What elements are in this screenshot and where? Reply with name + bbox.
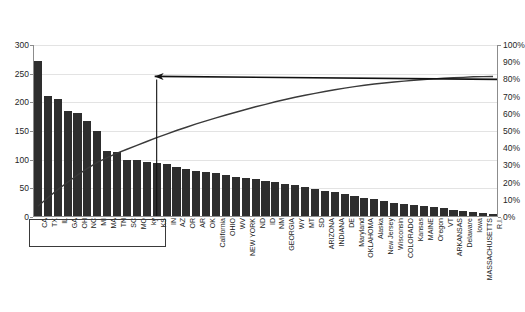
x-axis-tick-label: OK <box>209 218 216 228</box>
x-axis-tick-label: New Jersey <box>387 218 394 255</box>
x-axis-tick-label: Alaska <box>377 218 384 239</box>
x-axis-tick-label: AR <box>199 218 206 228</box>
y-axis-right-line <box>497 45 498 217</box>
x-axis-tick-label: OKLAHOMA <box>367 218 374 258</box>
x-axis-tick-label: GEORGIA <box>288 218 295 251</box>
plot-area: 050100150200250300 0%10%20%30%40%50%60%7… <box>33 45 498 217</box>
x-axis-tick-label: INDIANA <box>338 218 345 246</box>
x-axis-tick-label: Kansas <box>417 218 424 241</box>
y-axis-right-tick-label: 30% <box>503 160 520 170</box>
y-axis-right-tick-label: 60% <box>503 109 520 119</box>
cumulative-percent-line <box>38 76 493 206</box>
x-axis-tick-label: R.I. <box>496 218 503 229</box>
y-axis-left-tick-label: 0 <box>0 212 29 222</box>
x-axis-tick-label: NM <box>278 218 285 229</box>
x-axis-tick-label: DE <box>348 218 355 228</box>
vital-few-label-box <box>29 219 166 247</box>
x-axis-tick-label: MT <box>308 218 315 228</box>
y-axis-right-tick-label: 90% <box>503 57 520 67</box>
x-axis-tick-label: WV <box>239 218 246 229</box>
x-axis-tick-label: AZ <box>179 218 186 227</box>
y-axis-right-tick-label: 20% <box>503 178 520 188</box>
x-axis-tick-label: Delaware <box>466 218 473 248</box>
y-axis-right-tick-label: 40% <box>503 143 520 153</box>
x-axis-tick-label: VT <box>447 218 454 227</box>
x-axis-tick-label: ID <box>269 218 276 225</box>
x-axis-tick-label: OHIO <box>229 218 236 236</box>
x-axis-tick-label: SD <box>318 218 325 228</box>
x-axis-tick-label: MASSACHUSETTS <box>486 218 493 280</box>
y-axis-right-tick-label: 50% <box>503 126 520 136</box>
x-axis-tick-label: WY <box>298 218 305 229</box>
y-axis-left-line <box>33 45 34 217</box>
y-axis-left-tick-label: 50 <box>0 183 29 193</box>
x-axis-tick-label: ARKANSAS <box>456 218 463 256</box>
x-axis-tick-label: MAINE <box>427 218 434 240</box>
x-axis-tick-label: ND <box>259 218 266 228</box>
y-axis-left-tick-label: 150 <box>0 126 29 136</box>
x-axis-tick-label: IN <box>170 218 177 225</box>
y-axis-right-tick-label: 100% <box>503 40 525 50</box>
x-axis-tick-label: Maryland <box>358 218 365 247</box>
x-axis-tick-label: NEW YORK <box>249 218 256 256</box>
y-axis-right-tick-label: 80% <box>503 74 520 84</box>
y-axis-right-tick-mark <box>498 45 501 46</box>
x-axis-tick-label: OR <box>189 218 196 229</box>
y-axis-left-tick-label: 100 <box>0 155 29 165</box>
y-axis-right-tick-label: 10% <box>503 195 520 205</box>
cumulative-line-overlay <box>33 45 498 217</box>
x-axis-tick-label: California <box>219 218 226 248</box>
x-axis-tick-label: ARIZONA <box>328 218 335 249</box>
x-axis-tick-label: Iowa <box>476 218 483 233</box>
x-axis-tick-label: COLORADO <box>407 218 414 258</box>
x-axis-tick-label: Wisconsin <box>397 218 404 250</box>
y-axis-left-tick-label: 300 <box>0 40 29 50</box>
y-axis-right-tick-label: 70% <box>503 92 520 102</box>
y-axis-left-tick-label: 200 <box>0 97 29 107</box>
x-axis-tick-label: Oregon <box>437 218 444 241</box>
y-axis-right-tick-label: 0% <box>503 212 515 222</box>
y-axis-left-tick-label: 250 <box>0 69 29 79</box>
